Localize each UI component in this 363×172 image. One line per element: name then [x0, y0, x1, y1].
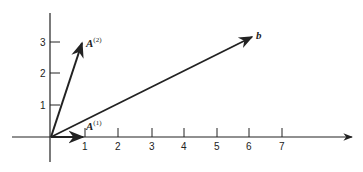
x-ticks [85, 128, 282, 137]
vector-b [51, 37, 252, 137]
svg-text:6: 6 [246, 141, 252, 152]
label-a1: A(1) [85, 119, 102, 132]
y-ticks [50, 42, 60, 105]
svg-text:5: 5 [214, 141, 220, 152]
y-tick-labels: 1 2 3 [40, 37, 46, 111]
svg-text:1: 1 [40, 100, 46, 111]
x-tick-labels: 1 2 3 4 5 6 7 [82, 141, 285, 152]
svg-text:2: 2 [115, 141, 121, 152]
svg-text:3: 3 [149, 141, 155, 152]
vector-diagram: 1 2 3 4 5 6 7 1 2 3 A(1) A(2) b [0, 0, 363, 172]
label-a2: A(2) [85, 36, 102, 49]
svg-text:1: 1 [82, 141, 88, 152]
svg-text:7: 7 [279, 141, 285, 152]
svg-text:4: 4 [181, 141, 187, 152]
svg-text:3: 3 [40, 37, 46, 48]
svg-text:2: 2 [40, 68, 46, 79]
label-b: b [256, 29, 262, 41]
